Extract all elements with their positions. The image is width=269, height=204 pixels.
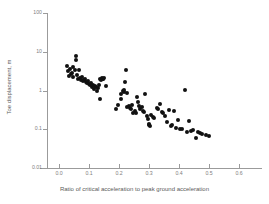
scatter-point: [134, 111, 138, 115]
scatter-point: [183, 88, 187, 92]
scatter-point: [97, 83, 101, 87]
x-tick-label: 0.2: [107, 171, 131, 176]
y-tick-label: 0.1: [20, 126, 42, 131]
scatter-point: [123, 80, 127, 84]
y-tick-label: 0.01: [20, 165, 42, 170]
scatter-point: [146, 117, 150, 121]
y-tick-label: 100: [20, 10, 42, 15]
scatter-point: [114, 107, 118, 111]
scatter-point: [73, 68, 77, 72]
x-tick-mark: [239, 164, 240, 168]
scatter-chart-figure: 0.010.1110100 0.00.10.20.30.40.50.6 Rati…: [0, 0, 269, 204]
scatter-point: [148, 124, 152, 128]
scatter-point: [124, 68, 128, 72]
scatter-point: [176, 118, 180, 122]
x-tick-label: 0.6: [227, 171, 251, 176]
y-tick-mark: [43, 168, 47, 169]
plot-area: [47, 13, 239, 168]
scatter-point: [130, 103, 134, 107]
scatter-point: [172, 109, 176, 113]
x-axis-title: Ratio of critical acceleration to peak g…: [0, 186, 269, 192]
scatter-point: [143, 92, 147, 96]
scatter-point: [77, 68, 81, 72]
y-tick-label: 1: [20, 88, 42, 93]
y-axis-title: Toe displacement, m: [6, 32, 12, 142]
scatter-point: [135, 95, 139, 99]
scatter-point: [207, 134, 211, 138]
scatter-point: [74, 54, 78, 58]
scatter-point: [180, 127, 184, 131]
scatter-point: [187, 119, 191, 123]
scatter-point: [104, 84, 108, 88]
x-tick-label: 0.1: [77, 171, 101, 176]
scatter-point: [163, 114, 167, 118]
y-tick-label: 10: [20, 49, 42, 54]
x-tick-label: 0.0: [47, 171, 71, 176]
scatter-point: [194, 136, 198, 140]
scatter-point: [119, 97, 123, 101]
scatter-point: [102, 76, 106, 80]
scatter-point: [136, 100, 140, 104]
scatter-point: [165, 120, 169, 124]
scatter-point: [116, 103, 120, 107]
scatter-point: [74, 58, 78, 62]
scatter-point: [158, 102, 162, 106]
x-tick-label: 0.3: [137, 171, 161, 176]
scatter-point: [191, 128, 195, 132]
scatter-point: [152, 116, 156, 120]
scatter-point: [125, 91, 129, 95]
scatter-point: [167, 108, 171, 112]
x-axis-line: [40, 168, 262, 169]
x-tick-label: 0.4: [167, 171, 191, 176]
x-tick-label: 0.5: [197, 171, 221, 176]
scatter-point: [98, 97, 102, 101]
